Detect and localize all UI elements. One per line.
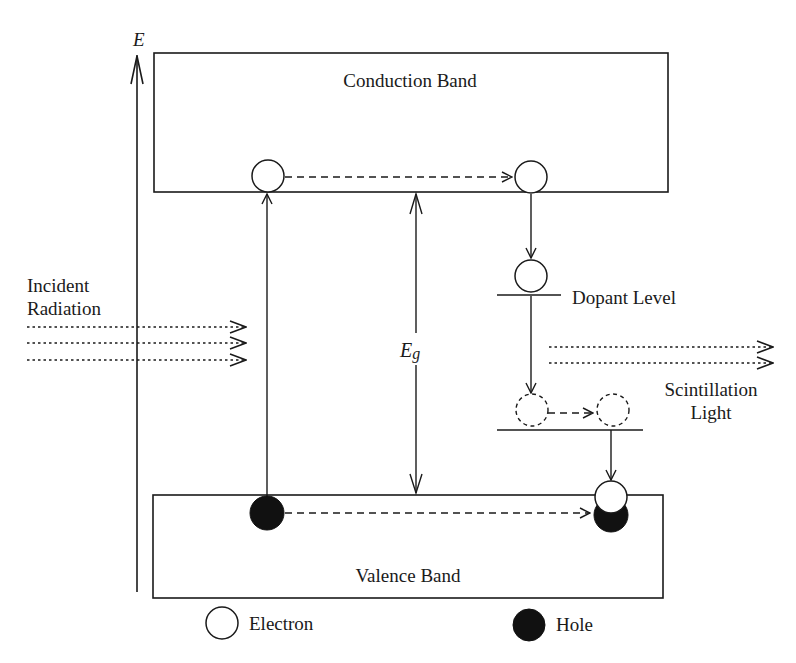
legend-electron-icon: [206, 607, 238, 639]
electron-icon: [515, 161, 547, 193]
scintillation-light: Scintillation Light: [549, 347, 773, 423]
legend-hole-icon: [513, 609, 545, 641]
scintillation-label-line1: Scintillation: [665, 379, 758, 400]
valence-band: Valence Band: [153, 495, 663, 598]
hole-icon: [250, 496, 284, 530]
band-diagram: E Conduction Band Valence Band Eg Dopant…: [0, 0, 796, 663]
conduction-band: Conduction Band: [154, 53, 668, 192]
energy-axis: E: [131, 29, 145, 592]
incident-label-line1: Incident: [27, 275, 90, 296]
band-gap-indicator: Eg: [399, 194, 422, 493]
electron-icon: [515, 260, 547, 292]
electron-dashed-icon: [516, 394, 548, 426]
band-gap-label: Eg: [399, 339, 420, 363]
incident-label-line2: Radiation: [27, 298, 101, 319]
legend-hole-label: Hole: [556, 614, 593, 635]
scintillation-label-line2: Light: [690, 402, 732, 423]
electron-icon: [595, 481, 627, 513]
electron-icon: [252, 160, 284, 192]
electron-dashed-icon: [597, 394, 629, 426]
valence-band-label: Valence Band: [356, 565, 461, 586]
conduction-band-label: Conduction Band: [343, 70, 477, 91]
dopant-level-label: Dopant Level: [572, 287, 676, 308]
axis-label: E: [132, 29, 145, 50]
legend: Electron Hole: [206, 607, 593, 641]
legend-electron-label: Electron: [249, 613, 314, 634]
